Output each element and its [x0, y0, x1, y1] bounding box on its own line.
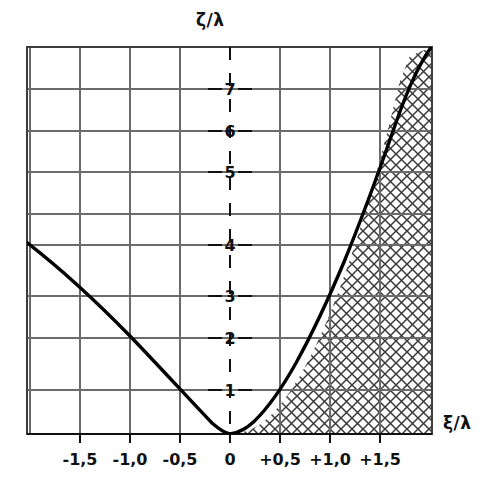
plot-canvas [0, 0, 492, 489]
y-tick-label-6: 6 [219, 122, 241, 141]
x-tick-label-pos1-5: +1,5 [351, 450, 409, 469]
y-tick-label-2: 2 [219, 329, 241, 348]
y-tick-label-3: 3 [219, 287, 241, 306]
y-tick-label-5: 5 [219, 163, 241, 182]
figure-root: ζ/λ ξ/λ 7 6 5 4 3 2 1 -1,5 -1,0 -0,5 0 +… [0, 0, 492, 489]
y-tick-label-7: 7 [219, 80, 241, 99]
y-tick-label-4: 4 [219, 236, 241, 255]
x-axis-title: ξ/λ [443, 413, 472, 433]
y-tick-label-1: 1 [219, 381, 241, 400]
y-axis-title: ζ/λ [196, 10, 225, 30]
x-tick-marks [80, 434, 380, 443]
